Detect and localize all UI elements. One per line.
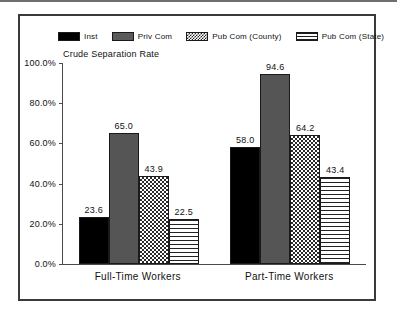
bar: 22.5 <box>169 219 199 264</box>
category-label: Full-Time Workers <box>62 271 214 282</box>
plot-wrapper: Crude Separation Rate 23.665.043.922.558… <box>0 0 397 317</box>
bar: 58.0 <box>230 147 260 264</box>
y-axis-tick-label: 60.0% <box>29 138 56 148</box>
bar: 94.6 <box>260 74 290 264</box>
bar-value-label: 65.0 <box>115 121 133 131</box>
bar: 43.9 <box>139 176 169 264</box>
plot-area: 23.665.043.922.558.094.664.243.4 0.0%20.… <box>62 63 366 265</box>
y-axis-tick <box>59 103 63 104</box>
bar-group: 23.665.043.922.5 <box>63 63 215 264</box>
y-axis-tick <box>59 63 63 64</box>
y-axis-tick-label: 80.0% <box>29 98 56 108</box>
y-axis-tick <box>59 224 63 225</box>
bar-group: 58.094.664.243.4 <box>215 63 367 264</box>
bar-value-label: 64.2 <box>296 123 314 133</box>
bar-value-label: 58.0 <box>236 135 254 145</box>
y-axis-tick <box>59 143 63 144</box>
bar-groups: 23.665.043.922.558.094.664.243.4 <box>63 63 366 264</box>
bar-value-label: 43.9 <box>145 164 163 174</box>
bar: 65.0 <box>109 133 139 264</box>
bar: 64.2 <box>290 135 320 264</box>
y-axis-tick <box>59 264 63 265</box>
y-axis-title: Crude Separation Rate <box>63 49 159 59</box>
bar-value-label: 22.5 <box>175 207 193 217</box>
bar: 43.4 <box>320 177 350 264</box>
y-axis-tick-label: 100.0% <box>24 58 56 68</box>
bar: 23.6 <box>79 217 109 264</box>
bar-value-label: 43.4 <box>326 165 344 175</box>
category-label: Part-Time Workers <box>214 271 366 282</box>
category-axis-labels: Full-Time WorkersPart-Time Workers <box>62 271 365 282</box>
y-axis-tick-label: 0.0% <box>35 259 56 269</box>
y-axis-tick <box>59 184 63 185</box>
bar-value-label: 23.6 <box>85 205 103 215</box>
bar-value-label: 94.6 <box>266 62 284 72</box>
y-axis-tick-label: 20.0% <box>29 219 56 229</box>
y-axis-tick-label: 40.0% <box>29 179 56 189</box>
